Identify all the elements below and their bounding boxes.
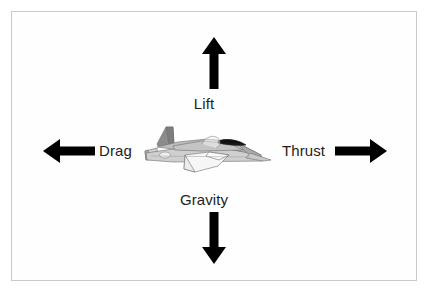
arrow-left-icon (43, 137, 95, 165)
diagram-frame: Lift Drag (11, 11, 417, 281)
drag-label: Drag (99, 143, 132, 158)
arrow-up-icon (200, 37, 228, 89)
thrust-label: Thrust (282, 143, 325, 158)
jet-airplane-icon (143, 124, 271, 178)
four-forces-of-flight-diagram: Lift Drag (0, 0, 430, 295)
arrow-down-icon (200, 212, 228, 264)
lift-label: Lift (1, 96, 407, 111)
arrow-right-icon (335, 137, 387, 165)
gravity-label: Gravity (1, 192, 407, 207)
